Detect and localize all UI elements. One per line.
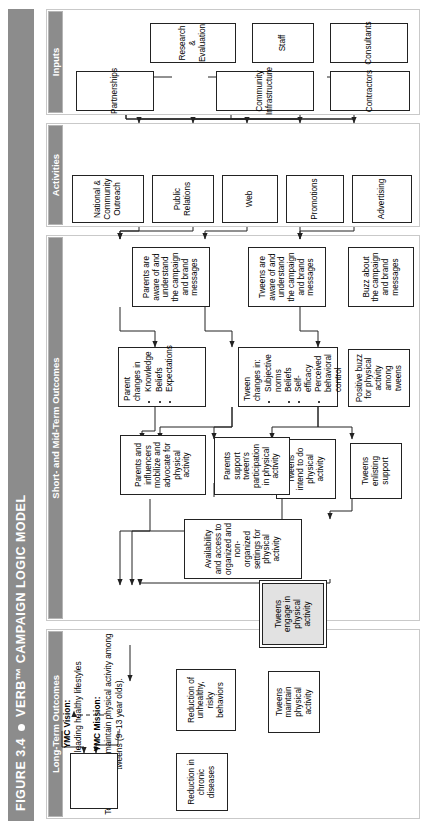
node-label: Buzz about the campaign and brand messag… xyxy=(362,251,401,303)
node-label: Parents and influencers mobilize and adv… xyxy=(134,439,192,491)
node-label: Community Infrastructure xyxy=(255,67,274,115)
vision-heading: YMC Vision: xyxy=(62,700,72,749)
node-label: Tweens enlisting support xyxy=(361,447,390,495)
tween-changes-heading: Tween changes in: xyxy=(243,353,262,401)
node-label: Reduction of unhealthy, risky behaviors xyxy=(187,673,226,727)
node-label: Staff xyxy=(278,35,288,52)
node-tweens-maintain-physical-activity: Tweens maintain physical activity xyxy=(268,671,320,733)
node-label: Research & Evaluation xyxy=(178,24,207,62)
node-positive-buzz-for-physical-activity: Positive buzz for physical activity amon… xyxy=(348,349,410,407)
node-label: Positive buzz for physical activity amon… xyxy=(355,353,403,403)
tween-changes-list: Subjective norms Beliefs Self-efficacy P… xyxy=(264,353,343,401)
list-item: Subjective norms xyxy=(264,353,283,392)
logic-model-canvas: FIGURE 3.4 VERB™ CAMPAIGN LOGIC MODEL In… xyxy=(0,0,428,831)
node-label: Partnerships xyxy=(110,68,120,114)
list-item: Beliefs xyxy=(155,353,165,392)
node-label: Consultants xyxy=(364,21,374,64)
node-tweens-enlisting-support: Tweens enlisting support xyxy=(350,443,402,499)
node-tweens-are-aware-and-understand: Tweens are aware of and understand the c… xyxy=(248,247,326,307)
node-contractors: Contractors xyxy=(330,71,410,111)
node-label: Tweens engage in physical activity xyxy=(274,587,313,641)
node-tweens-engage-in-physical-activity: Tweens engage in physical activity xyxy=(262,583,324,645)
mission-heading: YMC Mission: xyxy=(92,697,102,752)
parent-changes-list: Knowledge Beliefs Expectations xyxy=(144,353,174,401)
node-tween-changes-in: Tween changes in: Subjective norms Belie… xyxy=(238,347,338,407)
node-reduction-chronic-diseases xyxy=(70,753,118,809)
list-item: Beliefs xyxy=(284,353,294,392)
node-label: Reduction in chronic diseases xyxy=(187,757,216,807)
node-parent-changes-in: Parent changes in Knowledge Beliefs Expe… xyxy=(118,347,206,407)
node-parents-and-influencers-mobilize: Parents and influencers mobilize and adv… xyxy=(120,435,206,495)
node-label: Tweens maintain physical activity xyxy=(275,675,314,729)
list-item: Perceived behavioral control xyxy=(314,353,343,392)
node-promotions: Promotions xyxy=(286,175,344,223)
node-label: Advertising xyxy=(377,179,387,220)
parent-changes-heading: Parent changes in xyxy=(123,353,142,401)
node-advertising: Advertising xyxy=(352,175,412,223)
node-label: Tweens are aware of and understand the c… xyxy=(258,251,316,303)
node-community-infrastructure: Community Infrastructure xyxy=(216,71,314,111)
node-web: Web xyxy=(222,175,278,223)
node-reduction-unhealthy-risky-behaviors: Reduction of unhealthy, risky behaviors xyxy=(176,669,236,731)
node-consultants: Consultants xyxy=(330,23,408,63)
node-label: Public Relations xyxy=(173,179,192,219)
node-label: Web xyxy=(245,191,255,208)
node-label: Availability and access to organized and… xyxy=(204,523,281,575)
node-label: Contractors xyxy=(365,70,375,112)
node-label: National & Community Outreach xyxy=(93,178,122,219)
list-item: Self-efficacy xyxy=(294,353,313,392)
node-research-and-evaluation: Research & Evaluation xyxy=(150,23,236,63)
list-item: Expectations xyxy=(165,353,175,392)
node-partnerships: Partnerships xyxy=(76,71,154,111)
node-buzz-about-campaign-and-brand: Buzz about the campaign and brand messag… xyxy=(348,247,414,307)
node-label: Promotions xyxy=(310,178,320,219)
node-reduction-in-chronic-diseases: Reduction in chronic diseases xyxy=(176,753,228,811)
node-staff: Staff xyxy=(252,23,314,63)
node-parents-are-aware-and-understand: Parents are aware of and understand the … xyxy=(132,247,210,307)
node-parents-support-tweens-participation: Parents support tween's participation in… xyxy=(214,437,290,495)
node-label: Tweens intend to do physical activity xyxy=(287,443,326,495)
node-availability-and-access: Availability and access to organized and… xyxy=(184,519,302,579)
node-public-relations: Public Relations xyxy=(152,175,214,223)
node-label: Parents support tween's participation in… xyxy=(223,441,281,491)
node-label: Parents are aware of and understand the … xyxy=(142,251,200,303)
list-item: Knowledge xyxy=(144,353,154,392)
figure-page: FIGURE 3.4 VERB™ CAMPAIGN LOGIC MODEL In… xyxy=(0,0,428,831)
node-national-community-outreach: National & Community Outreach xyxy=(72,175,144,223)
